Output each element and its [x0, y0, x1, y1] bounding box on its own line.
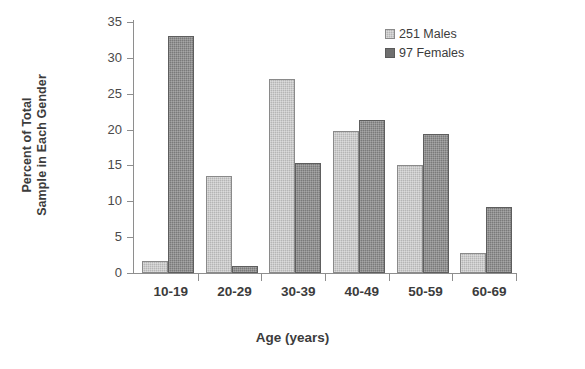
bar-females [232, 266, 258, 273]
y-axis-tick-label: 15 [98, 158, 122, 171]
legend-label-females: 97 Females [399, 46, 464, 60]
y-axis-title-line-2: Sample in Each Gender [35, 74, 50, 216]
y-axis-tick [127, 201, 134, 202]
bar-males [333, 131, 359, 273]
bar-females [295, 163, 321, 273]
bar-females [359, 120, 385, 273]
y-axis-tick [127, 22, 134, 23]
y-axis-tick-label: 10 [98, 194, 122, 207]
legend-swatch-females-icon [385, 48, 395, 58]
x-axis-tick [516, 274, 517, 281]
y-axis-tick-label: 30 [98, 51, 122, 64]
bar-females [168, 36, 194, 273]
x-axis-category-label: 30-39 [263, 284, 333, 299]
bar-males [397, 165, 423, 273]
y-axis-tick-labels: 05101520253035 [96, 0, 122, 300]
bar-males [206, 176, 232, 273]
legend-label-males: 251 Males [399, 27, 457, 41]
legend-swatch-males-icon [385, 29, 395, 39]
y-axis-tick-label: 35 [98, 15, 122, 28]
y-axis-tick-label: 0 [98, 266, 122, 279]
x-axis-category-label: 10-19 [136, 284, 206, 299]
x-axis-tick [325, 274, 326, 281]
x-axis-category-label: 60-69 [454, 284, 524, 299]
legend-item-males: 251 Males [385, 26, 464, 41]
bar-females [423, 134, 449, 273]
bar-group [261, 22, 325, 273]
y-axis-title: Percent of Total Sample in Each Gender [0, 0, 70, 290]
bar-males [142, 261, 168, 273]
y-axis-tick-label: 20 [98, 123, 122, 136]
bar-group [325, 22, 389, 273]
y-axis-tick-label: 5 [98, 230, 122, 243]
x-axis-tick [452, 274, 453, 281]
y-axis-tick [127, 273, 134, 274]
bar-chart-figure: Percent of Total Sample in Each Gender 0… [0, 0, 585, 369]
chart-legend: 251 Males 97 Females [385, 26, 464, 64]
x-axis-category-label: 20-29 [200, 284, 270, 299]
y-axis-tick [127, 130, 134, 131]
bar-group [134, 22, 198, 273]
x-axis-category-label: 40-49 [327, 284, 397, 299]
y-axis-title-line-1: Percent of Total [20, 74, 35, 216]
legend-item-females: 97 Females [385, 45, 464, 60]
y-axis-tick-label: 25 [98, 87, 122, 100]
y-axis-tick [127, 58, 134, 59]
x-axis-tick [261, 274, 262, 281]
bar-females [486, 207, 512, 273]
x-axis-tick [198, 274, 199, 281]
y-axis-tick [127, 237, 134, 238]
y-axis-tick [127, 165, 134, 166]
bar-males [269, 79, 295, 273]
bar-males [460, 253, 486, 273]
bar-group [198, 22, 262, 273]
y-axis-tick [127, 94, 134, 95]
x-axis-title: Age (years) [0, 330, 585, 345]
x-axis-tick [389, 274, 390, 281]
x-axis-category-label: 50-59 [391, 284, 461, 299]
